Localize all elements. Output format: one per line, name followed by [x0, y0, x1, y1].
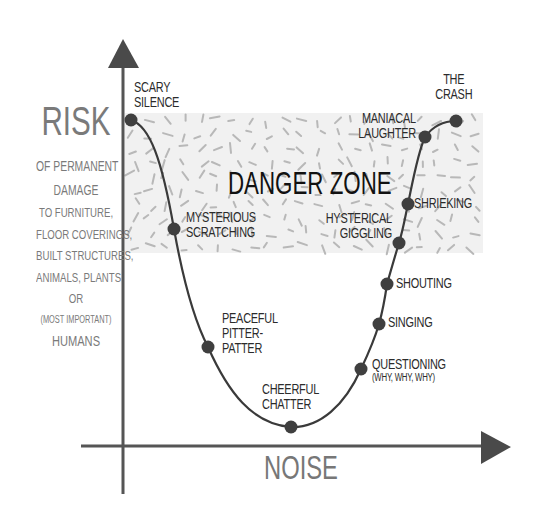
point-label-the-crash: THE CRASH	[435, 72, 472, 102]
risk-noise-diagram: DANGER ZONE RISK OF PERMANENTDAMAGETO FU…	[0, 0, 539, 513]
point-label-peaceful-pitter-patter: PEACEFUL PITTER- PATTER	[222, 311, 278, 356]
point-label-questioning: QUESTIONING(WHY, WHY, WHY)	[372, 357, 446, 383]
y-axis-subtitle-line: (MOST IMPORTANT)	[36, 310, 116, 329]
x-axis-title: NOISE	[264, 451, 338, 485]
y-axis-subtitle-line: TO FURNITURE,	[36, 202, 116, 224]
y-axis-arrow-icon	[108, 39, 139, 68]
point-dot-peaceful-pitter-patter	[202, 341, 215, 354]
y-axis-subtitle-line: HUMANS	[36, 329, 116, 353]
point-dot-mysterious-scratching	[168, 223, 181, 236]
point-label-mysterious-scratching: MYSTERIOUS SCRATCHING	[186, 210, 256, 240]
x-axis-arrow-icon	[481, 431, 511, 464]
point-dot-shouting	[381, 278, 394, 291]
point-dot-hysterical-giggling	[393, 237, 406, 250]
point-dot-questioning	[355, 363, 368, 376]
point-label-maniacal-laughter: MANIACAL LAUGHTER	[358, 111, 416, 141]
y-axis-subtitle-line: OR	[36, 288, 116, 310]
point-sublabel-questioning: (WHY, WHY, WHY)	[372, 372, 446, 383]
point-label-shrieking: SHRIEKING	[414, 196, 472, 211]
y-axis-subtitle-line: FLOOR COVERINGS,	[36, 224, 116, 246]
point-label-singing: SINGING	[388, 315, 432, 330]
point-label-scary-silence: SCARY SILENCE	[134, 80, 179, 110]
danger-zone-label: DANGER ZONE	[228, 166, 392, 202]
y-axis-subtitle-line: DAMAGE	[36, 178, 116, 202]
point-dot-singing	[373, 318, 386, 331]
y-axis-description: RISK OF PERMANENTDAMAGETO FURNITURE,FLOO…	[22, 100, 130, 353]
point-dot-the-crash	[450, 115, 463, 128]
point-dot-cheerful-chatter	[285, 421, 298, 434]
point-dot-shrieking	[402, 198, 415, 211]
point-dot-maniacal-laughter	[419, 131, 432, 144]
point-label-shouting: SHOUTING	[396, 276, 452, 291]
y-axis-subtitle: OF PERMANENTDAMAGETO FURNITURE,FLOOR COV…	[22, 154, 130, 353]
y-axis-title: RISK	[36, 100, 116, 142]
y-axis-subtitle-line: BUILT STRUCTURES,	[36, 245, 116, 267]
point-label-hysterical-giggling: HYSTERICAL GIGGLING	[326, 211, 392, 241]
y-axis-subtitle-line: ANIMALS, PLANTS	[36, 267, 116, 289]
y-axis-subtitle-line: OF PERMANENT	[36, 154, 116, 178]
point-label-cheerful-chatter: CHEERFUL CHATTER	[262, 382, 319, 412]
